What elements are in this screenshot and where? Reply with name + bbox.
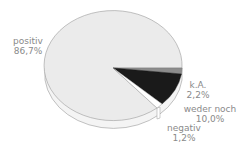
label-positiv-name: positiv xyxy=(8,36,48,46)
label-negativ: negativ 1,2% xyxy=(166,123,202,143)
label-negativ-value: 1,2% xyxy=(166,133,202,143)
label-ka-value: 2,2% xyxy=(183,90,213,100)
label-ka: k.A. 2,2% xyxy=(183,80,213,100)
label-positiv: positiv 86,7% xyxy=(8,36,48,56)
label-weder-noch: weder noch 10,0% xyxy=(180,104,240,124)
pie-chart xyxy=(0,0,248,152)
label-weder-noch-name: weder noch xyxy=(180,104,240,114)
label-ka-name: k.A. xyxy=(183,80,213,90)
negativ-side xyxy=(157,107,160,119)
label-positiv-value: 86,7% xyxy=(8,46,48,56)
label-negativ-name: negativ xyxy=(166,123,202,133)
